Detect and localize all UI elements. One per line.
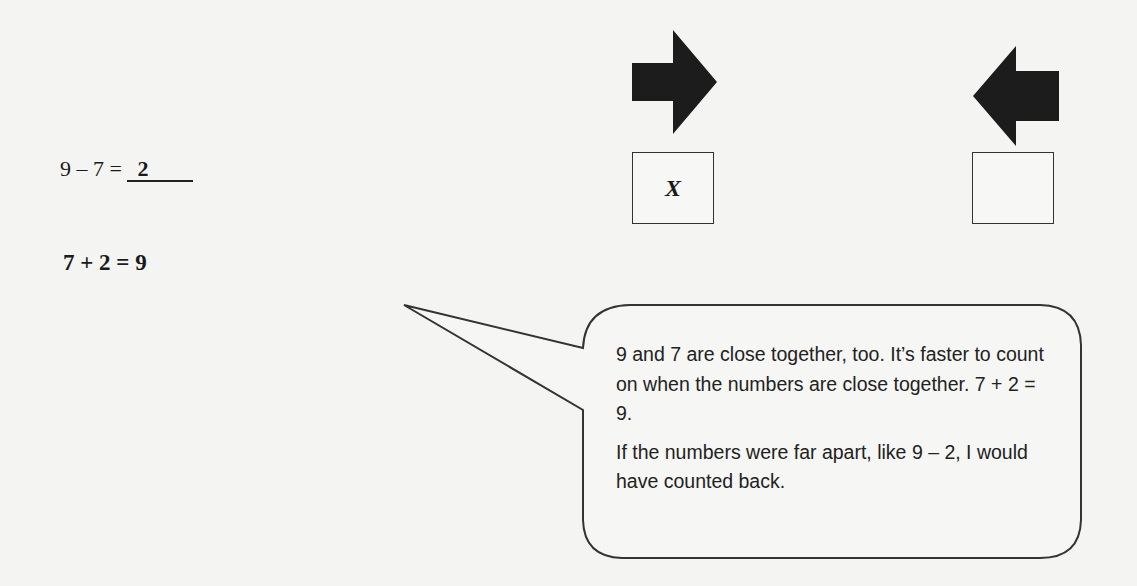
callout-paragraph-1: 9 and 7 are close together, too. It’s fa… bbox=[616, 340, 1056, 429]
answer-blank: 2 bbox=[127, 158, 193, 182]
subtraction-equation: 9 – 7 = 2 bbox=[60, 156, 193, 182]
check-equation: 7 + 2 = 9 bbox=[63, 250, 147, 276]
arrow-left-icon bbox=[973, 46, 1059, 146]
count-back-checkbox[interactable] bbox=[972, 152, 1054, 224]
checkbox-mark: X bbox=[665, 175, 681, 202]
callout-text: 9 and 7 are close together, too. It’s fa… bbox=[616, 340, 1056, 497]
equation-text: 9 – 7 = bbox=[60, 156, 127, 181]
callout-paragraph-2: If the numbers were far apart, like 9 – … bbox=[616, 438, 1056, 497]
graphics-layer bbox=[0, 0, 1137, 586]
count-on-checkbox[interactable]: X bbox=[632, 152, 714, 224]
arrow-right-icon bbox=[632, 30, 717, 134]
